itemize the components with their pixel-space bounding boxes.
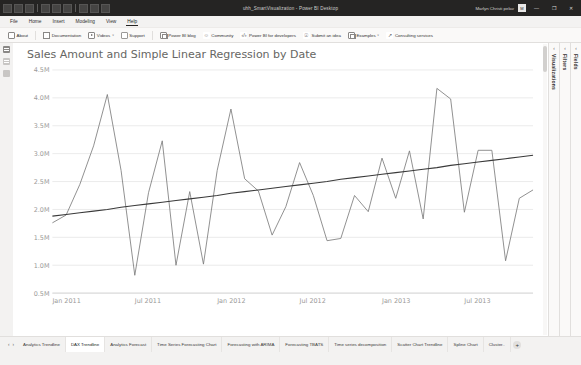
ribbon-label: Support bbox=[129, 33, 144, 38]
ribbon-divider bbox=[152, 31, 153, 40]
model-view-icon[interactable] bbox=[3, 70, 10, 77]
close-button[interactable]: ✕ bbox=[564, 1, 577, 15]
ribbon-button-community[interactable]: ☺ Community bbox=[203, 32, 234, 39]
menu-item-view[interactable]: View bbox=[105, 18, 117, 25]
text-box-icon[interactable] bbox=[90, 4, 99, 13]
ribbon-button-about[interactable]: About bbox=[8, 32, 28, 39]
tab-spline-chart[interactable]: Spline Chart bbox=[448, 337, 483, 352]
tab-time-series-forecasting-chart[interactable]: Time Series Forecasting Chart bbox=[152, 337, 222, 352]
more-options-icon[interactable] bbox=[101, 4, 110, 13]
ribbon-label: Submit an idea bbox=[312, 33, 341, 38]
ribbon-label: Videos bbox=[97, 33, 110, 38]
canvas-scrollbar[interactable] bbox=[543, 44, 547, 335]
y-axis-tick-label: 3.0M bbox=[34, 150, 50, 158]
ribbon-divider bbox=[35, 31, 36, 40]
y-axis-tick-label: 4.0M bbox=[34, 94, 50, 102]
y-axis-tick-label: 3.5M bbox=[34, 122, 50, 130]
tab-scatter-chart-trendline[interactable]: Scatter Chart Trendline bbox=[392, 337, 448, 352]
tab-forecasting-tbats[interactable]: Forecasting TBATS bbox=[280, 337, 329, 352]
chevron-down-icon[interactable]: ∨ bbox=[377, 33, 379, 37]
menu-item-insert[interactable]: Insert bbox=[52, 18, 66, 25]
ribbon-label: Consulting services bbox=[395, 33, 433, 38]
page-tab-bar: ‹ › Analytics Trendline DAX Trendline An… bbox=[0, 336, 581, 352]
pane-visualizations[interactable]: ‹ Visualizations bbox=[548, 43, 559, 336]
toolbar-divider bbox=[37, 4, 38, 12]
quick-access-toolbar[interactable] bbox=[3, 4, 110, 13]
ribbon-label: Power BI blog bbox=[168, 33, 195, 38]
ribbon-button-power-bi-blog[interactable]: Power BI blog bbox=[160, 32, 196, 39]
ribbon-button-documentation[interactable]: Documentation bbox=[43, 32, 81, 39]
minimize-button[interactable]: — bbox=[530, 1, 543, 15]
x-axis-tick-label: Jul 2012 bbox=[299, 297, 326, 305]
ribbon-label: Community bbox=[211, 33, 233, 38]
report-canvas[interactable]: Sales Amount and Simple Linear Regressio… bbox=[13, 43, 548, 336]
data-view-icon[interactable] bbox=[3, 58, 10, 65]
pane-filters[interactable]: ‹ Filters bbox=[559, 43, 570, 336]
menu-item-file[interactable]: File bbox=[9, 18, 19, 25]
tab-nav[interactable]: ‹ › bbox=[4, 337, 18, 352]
power-bi-desktop-window: uhh_SmartVisualization - Power BI Deskto… bbox=[0, 0, 581, 365]
tab-cluster[interactable]: Cluster.. bbox=[484, 337, 511, 352]
chevron-left-icon[interactable]: ‹ bbox=[564, 46, 566, 51]
canvas-scrollbar-thumb[interactable] bbox=[543, 46, 547, 72]
new-visual-icon[interactable] bbox=[79, 4, 88, 13]
tab-time-series-decomposition[interactable]: Time series decomposition bbox=[329, 337, 392, 352]
paste-icon[interactable] bbox=[41, 4, 50, 13]
video-icon bbox=[88, 32, 95, 39]
avatar[interactable]: M bbox=[518, 4, 526, 12]
x-axis-tick-label: Jan 2011 bbox=[51, 297, 80, 305]
view-switcher-rail bbox=[0, 43, 13, 336]
line-chart-visual[interactable]: Sales Amount and Simple Linear Regressio… bbox=[14, 44, 547, 335]
undo-icon[interactable] bbox=[14, 4, 23, 13]
ribbon-button-support[interactable]: Support bbox=[121, 32, 145, 39]
ribbon-button-examples[interactable]: Examples ∨ bbox=[348, 32, 379, 39]
redo-icon[interactable] bbox=[25, 4, 34, 13]
account-name[interactable]: Marlyn Christi pelav bbox=[475, 6, 514, 11]
tab-forecasting-with-arima[interactable]: Forecasting with ARIMA bbox=[222, 337, 280, 352]
tab-nav-next-icon[interactable]: › bbox=[13, 342, 15, 347]
plot-area[interactable]: 0.5M1.0M1.5M2.0M2.5M3.0M3.5M4.0M4.5MJan … bbox=[27, 66, 535, 309]
y-axis-tick-label: 2.5M bbox=[34, 178, 50, 186]
consulting-icon: ↗ bbox=[386, 32, 393, 39]
ribbon-button-power-bi-for-developers[interactable]: ‹/› Power BI for developers bbox=[240, 32, 295, 39]
menu-item-help[interactable]: Help bbox=[126, 18, 138, 26]
add-page-button[interactable]: + bbox=[511, 337, 524, 352]
y-axis-tick-label: 1.5M bbox=[34, 234, 50, 242]
ribbon-button-submit-an-idea[interactable]: ☉ Submit an idea bbox=[303, 32, 341, 39]
lightbulb-idea-icon: ☉ bbox=[303, 32, 310, 39]
ribbon-label: Documentation bbox=[52, 33, 82, 38]
get-data-icon[interactable] bbox=[52, 4, 61, 13]
plus-icon[interactable]: + bbox=[513, 341, 521, 349]
restore-button[interactable]: ❐ bbox=[547, 1, 560, 15]
chevron-down-icon[interactable]: ∨ bbox=[112, 33, 114, 37]
pane-label-fields: Fields bbox=[573, 54, 579, 70]
y-axis-tick-label: 2.0M bbox=[34, 206, 50, 214]
x-axis-tick-label: Jan 2013 bbox=[381, 297, 410, 305]
chevron-left-icon[interactable]: ‹ bbox=[553, 46, 555, 51]
ribbon-button-consulting-services[interactable]: ↗ Consulting services bbox=[386, 32, 433, 39]
menu-item-modeling[interactable]: Modeling bbox=[75, 18, 96, 25]
tab-nav-prev-icon[interactable]: ‹ bbox=[8, 342, 10, 347]
pane-fields[interactable]: ‹ Fields bbox=[570, 43, 581, 336]
examples-icon bbox=[348, 32, 355, 39]
blog-icon bbox=[160, 32, 167, 39]
book-icon bbox=[43, 32, 50, 39]
toolbar-divider bbox=[75, 4, 76, 12]
help-ribbon: About Documentation Videos ∨ Support Pow… bbox=[0, 28, 581, 43]
y-axis-tick-label: 4.5M bbox=[34, 66, 50, 74]
y-axis-tick-label: 1.0M bbox=[34, 262, 50, 270]
menu-item-home[interactable]: Home bbox=[28, 18, 43, 25]
report-view-icon[interactable] bbox=[3, 46, 10, 53]
save-icon[interactable] bbox=[3, 4, 12, 13]
lifebuoy-icon bbox=[121, 32, 128, 39]
x-axis-tick-label: Jul 2011 bbox=[134, 297, 161, 305]
x-axis-tick-label: Jan 2012 bbox=[216, 297, 245, 305]
info-icon bbox=[8, 32, 15, 39]
chevron-left-icon[interactable]: ‹ bbox=[575, 46, 577, 51]
tab-dax-trendline[interactable]: DAX Trendline bbox=[66, 337, 105, 352]
side-panes: ‹ Visualizations ‹ Filters ‹ Fields bbox=[548, 43, 581, 336]
ribbon-button-videos[interactable]: Videos ∨ bbox=[88, 32, 114, 39]
tab-analytics-forecast[interactable]: Analytics Forecast bbox=[105, 337, 152, 352]
tab-analytics-trendline[interactable]: Analytics Trendline bbox=[18, 337, 66, 352]
refresh-icon[interactable] bbox=[63, 4, 72, 13]
